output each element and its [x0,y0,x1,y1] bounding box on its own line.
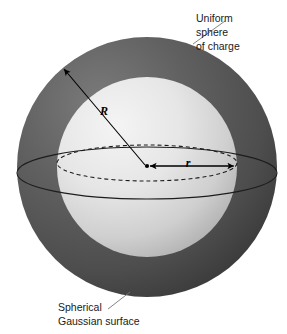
uniform-sphere-label-line1: Uniform [196,12,233,24]
uniform-sphere-label-line3: of charge [196,40,240,52]
diagram-canvas: R r Uniform sphere of charge Spherical G… [0,0,287,334]
gaussian-surface-leader-line [108,292,130,309]
physics-diagram-gauss-sphere: R r Uniform sphere of charge Spherical G… [0,0,287,334]
gaussian-surface-label-line2: Gaussian surface [58,315,140,327]
sphere-center-dot [145,164,149,168]
radius-r-label: r [186,156,191,170]
radius-R-label: R [99,104,108,118]
gaussian-surface-label-line1: Spherical [58,301,102,313]
uniform-sphere-label-line2: sphere [196,26,228,38]
